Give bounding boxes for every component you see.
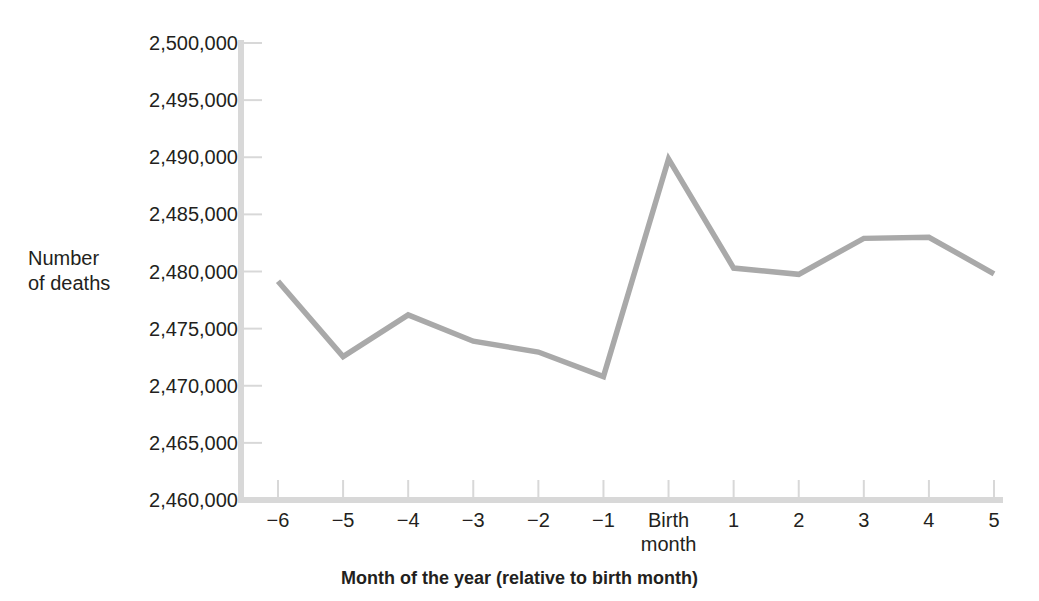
y-axis-ticks [244,43,262,500]
deaths-series-line [278,159,994,377]
plot-area [0,0,1039,601]
axis-lines [241,43,1000,500]
x-axis-title: Month of the year (relative to birth mon… [0,568,1039,589]
x-axis-ticks [278,480,994,497]
line-chart: Number of deaths 2,500,0002,495,0002,490… [0,0,1039,601]
